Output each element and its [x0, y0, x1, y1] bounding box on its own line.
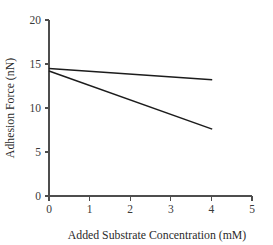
chart-figure: 05101520 012345 Added Substrate Concentr…: [0, 0, 273, 245]
plot-background: [0, 0, 273, 245]
y-tick-label: 15: [30, 58, 42, 70]
x-tick-label: 1: [87, 203, 93, 215]
x-axis-title: Added Substrate Concentration (mM): [68, 228, 247, 242]
y-tick-label: 20: [30, 14, 42, 26]
y-axis-title: Adhesion Force (nN): [3, 58, 17, 158]
adhesion-force-line-chart: 05101520 012345 Added Substrate Concentr…: [0, 0, 273, 245]
x-tick-label: 2: [127, 203, 133, 215]
x-tick-label: 3: [168, 203, 174, 215]
y-tick-label: 0: [35, 190, 41, 202]
x-tick-label: 5: [249, 203, 255, 215]
x-tick-label: 4: [209, 203, 215, 215]
y-tick-label: 5: [35, 146, 41, 158]
x-tick-label: 0: [46, 203, 52, 215]
y-tick-label: 10: [30, 102, 42, 114]
